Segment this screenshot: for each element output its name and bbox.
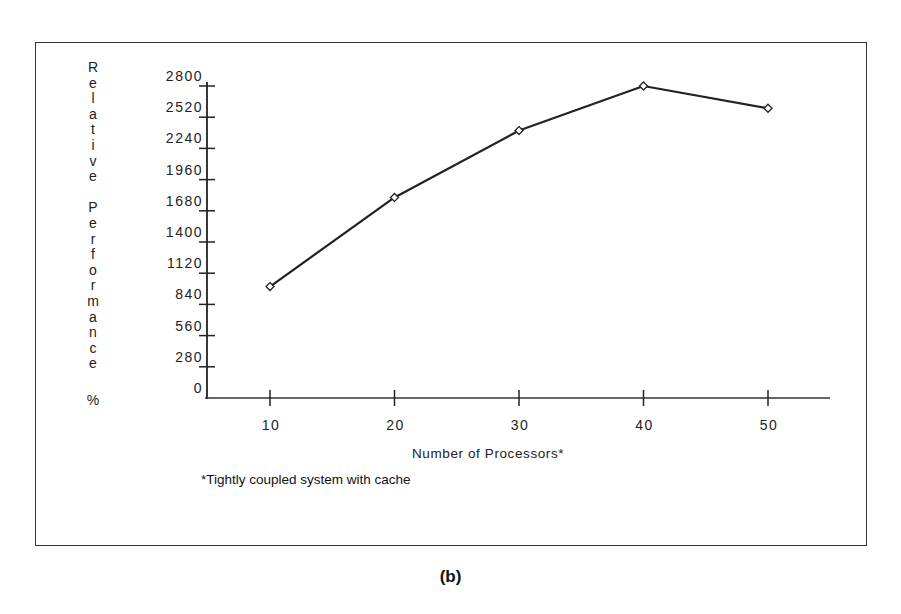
x-tick-label: 50 [760, 417, 779, 433]
x-axis-label: Number of Processors* [412, 446, 564, 461]
y-tick-label: 840 [175, 286, 203, 302]
y-tick-label: 560 [175, 318, 203, 334]
data-series-line [270, 86, 768, 287]
y-tick-label: 280 [175, 349, 203, 365]
data-point-diamond-marker [640, 82, 648, 90]
x-tick-label: 30 [511, 417, 530, 433]
line-chart: 0280560840112014001680196022402520280010… [0, 0, 901, 614]
y-tick-label: 1400 [166, 224, 203, 240]
x-tick-label: 20 [386, 417, 405, 433]
footnote: *Tightly coupled system with cache [201, 472, 411, 487]
y-tick-label: 1680 [166, 193, 203, 209]
y-tick-label: 1960 [166, 162, 203, 178]
x-tick-label: 40 [635, 417, 654, 433]
figure-caption: (b) [0, 567, 901, 587]
y-tick-label: 2520 [166, 99, 203, 115]
x-tick-label: 10 [262, 417, 281, 433]
data-point-diamond-marker [515, 127, 523, 135]
y-tick-label: 2800 [166, 68, 203, 84]
y-tick-label: 0 [194, 380, 203, 396]
y-tick-label: 1120 [167, 255, 203, 271]
y-tick-label: 2240 [166, 130, 203, 146]
data-point-diamond-marker [764, 104, 772, 112]
